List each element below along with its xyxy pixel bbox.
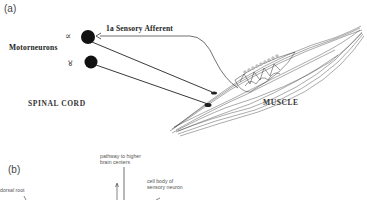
dorsal-root-label: dorsal root bbox=[0, 187, 25, 193]
alpha-symbol: ∝ bbox=[65, 31, 71, 41]
motorneurons-label: Motorneurons bbox=[9, 43, 58, 52]
pathway-label-line2: brain centers bbox=[100, 159, 130, 165]
cell-body-label-line2: sensory neuron bbox=[147, 184, 183, 190]
panel-b-label: (b) bbox=[8, 164, 20, 175]
panel-a-label: (a) bbox=[4, 3, 16, 14]
muscle-label: MUSCLE bbox=[263, 98, 299, 107]
afferent-label: 1a Sensory Afferent bbox=[106, 24, 173, 33]
gamma-motor-axon bbox=[96, 65, 208, 104]
ia-afferent-fiber bbox=[100, 36, 238, 88]
gamma-motorneuron-soma bbox=[85, 56, 98, 69]
spinal-cord-label: SPINAL CORD bbox=[28, 99, 86, 108]
cell-body-pointer bbox=[156, 198, 160, 200]
gamma-symbol: ४ bbox=[68, 56, 73, 69]
dorsal-root-pointer bbox=[24, 196, 26, 200]
neuromuscular-junctions bbox=[205, 92, 218, 108]
